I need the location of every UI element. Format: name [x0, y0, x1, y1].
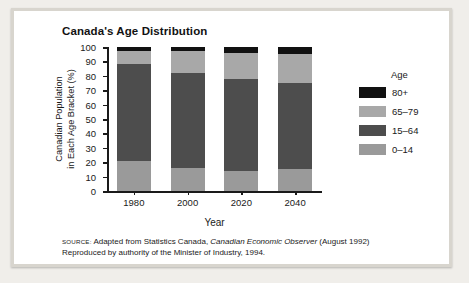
bar-segment: [278, 83, 312, 169]
y-tick: 90: [103, 61, 107, 63]
legend-label: 65–79: [392, 106, 418, 117]
source-line-1-text-a: Adapted from Statistics Canada,: [92, 237, 211, 246]
legend-swatch: [359, 125, 386, 136]
bar-segment: [224, 171, 258, 191]
y-tick-label: 20: [85, 157, 96, 168]
source-line-1-text-b: (August 1992): [317, 237, 369, 246]
x-tick-label: 2020: [211, 197, 271, 208]
y-tick-label: 90: [85, 56, 96, 67]
y-tick: 10: [103, 177, 107, 179]
legend: Age 80+65–7915–640–14: [359, 69, 449, 160]
bar-stack: [117, 47, 151, 191]
legend-swatch: [359, 87, 386, 98]
source-publication: Canadian Economic Observer: [210, 237, 317, 246]
y-tick: 40: [103, 133, 107, 135]
y-tick-label: 100: [80, 42, 96, 53]
y-tick-label: 10: [85, 171, 96, 182]
bar-segment: [224, 53, 258, 79]
y-tick: 70: [103, 90, 107, 92]
legend-swatch: [359, 106, 386, 117]
bar-segment: [278, 47, 312, 54]
figure-frame: Canada's Age Distribution Canadian Popul…: [11, 8, 452, 267]
x-tick-label: 1980: [104, 197, 164, 208]
legend-label: 15–64: [392, 125, 418, 136]
plot-area: 0102030405060708090100 1980200020202040: [107, 47, 322, 199]
legend-label: 0–14: [392, 144, 413, 155]
chart-title: Canada's Age Distribution: [62, 25, 207, 37]
y-tick: 50: [103, 119, 107, 121]
y-tick-label: 30: [85, 142, 96, 153]
legend-swatch: [359, 144, 386, 155]
x-tick: [241, 191, 243, 195]
bar-segment: [224, 79, 258, 171]
y-tick: 30: [103, 148, 107, 150]
y-tick: 0: [103, 191, 107, 193]
legend-item: 15–64: [359, 122, 449, 138]
bar-segment: [117, 161, 151, 191]
bar-stack: [278, 47, 312, 191]
x-tick: [134, 191, 136, 195]
bar-stack: [171, 47, 205, 191]
legend-title: Age: [391, 69, 449, 80]
y-axis-label: Canadian Population in Each Age Bracket …: [54, 0, 68, 47]
figure-inner: Canada's Age Distribution Canadian Popul…: [14, 11, 449, 264]
y-tick: 60: [103, 105, 107, 107]
legend-item: 65–79: [359, 103, 449, 119]
source-tag: Source:: [62, 238, 92, 245]
x-tick: [188, 191, 190, 195]
source-note: Source: Adapted from Statistics Canada, …: [62, 236, 412, 258]
legend-items: 80+65–7915–640–14: [359, 84, 449, 157]
bar-segment: [171, 51, 205, 73]
bar-segment: [278, 169, 312, 191]
x-tick-label: 2000: [158, 197, 218, 208]
y-tick-label: 0: [91, 186, 96, 197]
x-axis-label: Year: [107, 217, 322, 228]
legend-item: 0–14: [359, 141, 449, 157]
y-tick: 20: [103, 162, 107, 164]
y-tick-label: 40: [85, 128, 96, 139]
y-tick-label: 60: [85, 99, 96, 110]
y-tick-label: 80: [85, 70, 96, 81]
y-tick-label: 50: [85, 114, 96, 125]
x-tick: [295, 191, 297, 195]
x-tick-label: 2040: [265, 197, 325, 208]
screenshot-root: Canada's Age Distribution Canadian Popul…: [0, 0, 469, 283]
y-tick-label: 70: [85, 85, 96, 96]
legend-label: 80+: [392, 87, 408, 98]
bar-stack: [224, 47, 258, 191]
y-tick: 100: [103, 47, 107, 49]
bar-segment: [171, 168, 205, 191]
source-line-1: Source: Adapted from Statistics Canada, …: [62, 236, 412, 247]
source-line-2: Reproduced by authority of the Minister …: [62, 247, 412, 258]
y-axis-label-line2: in Each Age Bracket (%): [66, 47, 78, 191]
y-axis-line: [107, 47, 109, 191]
y-tick: 80: [103, 76, 107, 78]
bar-segment: [117, 51, 151, 64]
bar-segment: [117, 64, 151, 160]
legend-item: 80+: [359, 84, 449, 100]
y-axis-label-line1: Canadian Population: [54, 47, 66, 191]
x-axis-line: [107, 191, 322, 193]
bar-segment: [278, 54, 312, 83]
bar-segment: [171, 73, 205, 168]
